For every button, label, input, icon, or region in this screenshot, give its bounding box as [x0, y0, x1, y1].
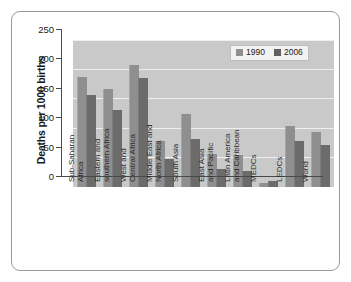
- y-axis-line: [61, 29, 62, 177]
- x-label-line: LEDCs: [275, 157, 284, 182]
- x-label-line: Middle East and: [145, 125, 154, 182]
- x-label-line: Eastern and: [93, 129, 102, 182]
- y-tick-mark-0: [56, 176, 61, 177]
- y-tick-mark-250: [56, 29, 61, 30]
- x-label-medcs: MEDCs: [249, 154, 258, 182]
- x-label-ledcs: LEDCs: [275, 157, 284, 182]
- bar-2006-world: [320, 145, 330, 187]
- figure-frame: Deaths per 1000 births: [11, 11, 340, 271]
- y-tick-label-50: 50: [14, 143, 54, 153]
- x-label-line: Africa: [76, 135, 85, 182]
- x-label-sub-saharan-africa: Sub-Saharan Africa: [67, 135, 85, 182]
- y-tick-label-100: 100: [14, 113, 54, 123]
- x-label-line: Latin America: [223, 130, 232, 182]
- x-label-line: Central Africa: [128, 134, 137, 182]
- x-label-west-and-central-africa: West and Central Africa: [119, 134, 137, 182]
- y-tick-label-150: 150: [14, 84, 54, 94]
- y-tick-mark-100: [56, 117, 61, 118]
- x-label-line: MEDCs: [249, 154, 258, 182]
- y-tick-mark-200: [56, 58, 61, 59]
- legend-entry-2006: 2006: [274, 48, 303, 57]
- x-label-latin-america-and-caribbean: Latin America and Caribbean: [223, 130, 241, 182]
- y-tick-label-0: 0: [14, 172, 54, 182]
- gridline-200: [73, 69, 334, 70]
- x-label-world: World: [301, 161, 310, 182]
- x-label-line: and Caribbean: [232, 130, 241, 182]
- x-label-line: West and: [119, 134, 128, 182]
- legend-entry-1990: 1990: [236, 48, 265, 57]
- x-label-middle-east-and-north-africa: Middle East and North Africa: [145, 125, 163, 182]
- legend-label-2006: 2006: [284, 48, 303, 57]
- x-label-line: southern Africa: [102, 129, 111, 182]
- y-tick-mark-50: [56, 147, 61, 148]
- x-label-eastern-and-southern-africa: Eastern and southern Africa: [93, 129, 111, 182]
- chart-screenshot: Deaths per 1000 births: [0, 0, 351, 282]
- x-label-line: South Asia: [171, 144, 180, 182]
- x-label-line: North Africa: [154, 125, 163, 182]
- x-label-south-asia: South Asia: [171, 144, 180, 182]
- x-label-line: East Asia: [197, 143, 206, 182]
- x-label-line: Sub-Saharan: [67, 135, 76, 182]
- gridline-250: [73, 40, 334, 41]
- y-tick-label-250: 250: [14, 25, 54, 35]
- y-tick-label-200: 200: [14, 54, 54, 64]
- x-label-line: and Pacific: [206, 143, 215, 182]
- legend-label-1990: 1990: [246, 48, 265, 57]
- x-label-east-asia-and-pacific: East Asia and Pacific: [197, 143, 215, 182]
- legend-swatch-2006-icon: [274, 49, 281, 56]
- legend-swatch-1990-icon: [236, 49, 243, 56]
- chart-legend: 1990 2006: [230, 45, 309, 61]
- y-tick-mark-150: [56, 88, 61, 89]
- x-label-line: World: [301, 161, 310, 182]
